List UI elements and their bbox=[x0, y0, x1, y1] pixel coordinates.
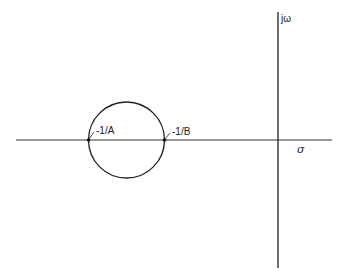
leader-line-b bbox=[165, 133, 170, 139]
label-minus-1-over-a: -1/A bbox=[96, 125, 115, 136]
label-j-omega: jω bbox=[280, 13, 291, 24]
point-minus-1-over-a bbox=[87, 138, 91, 142]
point-minus-1-over-b bbox=[163, 138, 167, 142]
label-minus-1-over-b: -1/B bbox=[172, 126, 191, 137]
label-sigma: σ bbox=[297, 143, 305, 156]
complex-plane-diagram: -1/A -1/B jω σ bbox=[0, 0, 340, 279]
